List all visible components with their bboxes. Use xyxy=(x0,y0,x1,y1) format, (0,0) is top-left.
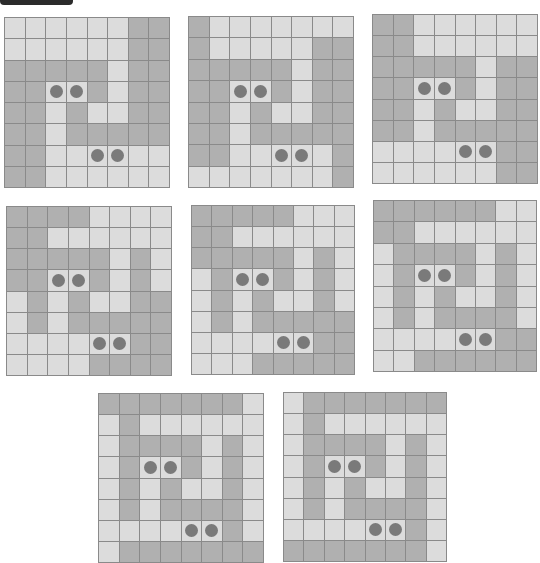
light-cell xyxy=(192,333,211,353)
light-cell xyxy=(202,479,222,499)
dark-cell xyxy=(394,15,414,35)
dark-cell xyxy=(496,351,515,371)
light-cell xyxy=(427,541,446,561)
light-cell xyxy=(294,206,313,226)
dark-cell xyxy=(88,61,108,81)
light-cell xyxy=(149,167,169,187)
dark-cell xyxy=(48,207,68,227)
dark-cell xyxy=(406,520,425,540)
light-cell xyxy=(90,228,110,248)
dark-cell xyxy=(394,78,414,98)
dark-cell xyxy=(292,124,312,144)
dark-cell xyxy=(272,81,292,101)
light-cell xyxy=(243,415,263,435)
maze-grid-2 xyxy=(188,16,354,188)
circle-marker-icon xyxy=(50,85,63,98)
light-cell xyxy=(435,329,454,349)
light-cell xyxy=(517,15,537,35)
light-cell xyxy=(294,333,313,353)
light-cell xyxy=(140,500,160,520)
dark-cell xyxy=(131,249,151,269)
light-cell xyxy=(88,18,108,38)
light-cell xyxy=(253,269,272,289)
light-cell xyxy=(233,312,252,332)
light-cell xyxy=(233,227,252,247)
light-cell xyxy=(325,499,344,519)
light-cell xyxy=(386,435,405,455)
dark-cell xyxy=(314,333,333,353)
dark-cell xyxy=(496,329,515,349)
dark-cell xyxy=(28,292,48,312)
light-cell xyxy=(161,415,181,435)
dark-cell xyxy=(69,249,89,269)
light-cell xyxy=(67,167,87,187)
light-cell xyxy=(414,100,434,120)
dark-cell xyxy=(131,270,151,290)
dark-cell xyxy=(129,39,149,59)
dark-cell xyxy=(394,121,414,141)
dark-cell xyxy=(253,206,272,226)
light-cell xyxy=(517,265,536,285)
light-cell xyxy=(272,103,292,123)
light-cell xyxy=(67,82,87,102)
light-cell xyxy=(374,351,393,371)
dark-cell xyxy=(120,415,140,435)
dark-cell xyxy=(333,103,353,123)
circle-marker-icon xyxy=(113,337,126,350)
maze-grid-6 xyxy=(373,200,537,372)
dark-cell xyxy=(456,57,476,77)
light-cell xyxy=(497,36,517,56)
dark-cell xyxy=(476,351,495,371)
light-cell xyxy=(335,248,354,268)
circle-marker-icon xyxy=(52,274,65,287)
light-cell xyxy=(435,163,455,183)
circle-marker-icon xyxy=(72,274,85,287)
light-cell xyxy=(67,146,87,166)
light-cell xyxy=(99,479,119,499)
dark-cell xyxy=(304,499,323,519)
light-cell xyxy=(335,291,354,311)
light-cell xyxy=(151,249,171,269)
dark-cell xyxy=(5,167,25,187)
dark-cell xyxy=(140,394,160,414)
dark-cell xyxy=(26,124,46,144)
dark-cell xyxy=(517,329,536,349)
dark-cell xyxy=(5,124,25,144)
dark-cell xyxy=(435,121,455,141)
circle-marker-icon xyxy=(277,336,290,349)
circle-marker-icon xyxy=(438,82,451,95)
dark-cell xyxy=(414,57,434,77)
light-cell xyxy=(517,244,536,264)
dark-cell xyxy=(189,145,209,165)
dark-cell xyxy=(497,57,517,77)
light-cell xyxy=(374,265,393,285)
light-cell xyxy=(415,308,434,328)
circle-marker-icon xyxy=(275,149,288,162)
light-cell xyxy=(251,145,271,165)
circle-marker-icon xyxy=(389,523,402,536)
dark-cell xyxy=(233,248,252,268)
dark-cell xyxy=(161,500,181,520)
light-cell xyxy=(394,351,413,371)
dark-cell xyxy=(456,78,476,98)
dark-cell xyxy=(120,479,140,499)
dark-cell xyxy=(366,541,385,561)
light-cell xyxy=(386,520,405,540)
light-cell xyxy=(435,222,454,242)
light-cell xyxy=(335,206,354,226)
light-cell xyxy=(284,435,303,455)
light-cell xyxy=(212,354,231,374)
dark-cell xyxy=(5,146,25,166)
light-cell xyxy=(69,228,89,248)
light-cell xyxy=(272,17,292,37)
light-cell xyxy=(476,57,496,77)
dark-cell xyxy=(373,57,393,77)
light-cell xyxy=(26,18,46,38)
dark-cell xyxy=(304,435,323,455)
light-cell xyxy=(427,499,446,519)
light-cell xyxy=(294,291,313,311)
light-cell xyxy=(274,333,293,353)
light-cell xyxy=(284,393,303,413)
dark-cell xyxy=(345,478,364,498)
dark-cell xyxy=(314,269,333,289)
